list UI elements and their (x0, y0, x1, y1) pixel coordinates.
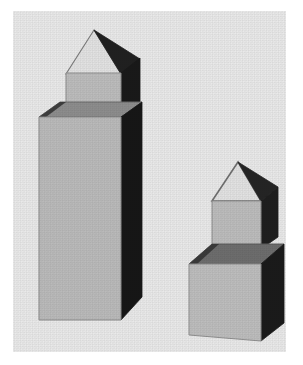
short-tower (189, 162, 284, 341)
short-base-front-face (189, 264, 261, 341)
block-scene (13, 11, 286, 352)
tall-base-front-face (39, 117, 121, 320)
short-cube-front-face (212, 201, 261, 249)
image-panel (13, 11, 286, 352)
tall-tower (39, 30, 142, 320)
image-canvas (0, 0, 303, 365)
tall-base-right-face (121, 102, 142, 320)
